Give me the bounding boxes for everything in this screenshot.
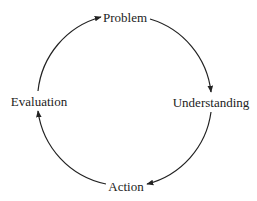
arrow-action-to-evaluation	[38, 111, 106, 184]
arrow-understanding-to-action	[147, 112, 211, 184]
node-understanding: Understanding	[173, 96, 250, 109]
arrow-problem-to-understanding	[150, 19, 211, 92]
arrow-evaluation-to-problem	[38, 17, 101, 91]
node-evaluation: Evaluation	[11, 95, 67, 108]
node-problem: Problem	[103, 11, 147, 24]
cycle-diagram: Problem Understanding Action Evaluation	[0, 0, 257, 201]
node-action: Action	[108, 180, 143, 193]
